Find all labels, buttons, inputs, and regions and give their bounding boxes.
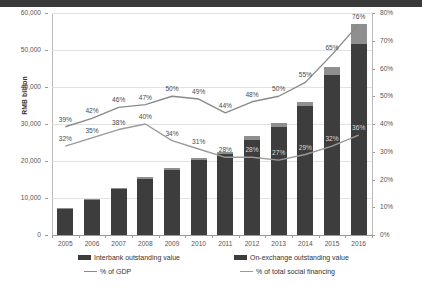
x-tick-mark bbox=[239, 235, 240, 238]
y-tick-label-right: 80% bbox=[380, 9, 393, 16]
label-gdp-2012: 48% bbox=[241, 91, 263, 98]
legend-item-label: On-exchange outstanding value bbox=[250, 254, 349, 261]
label-gdp-2015: 65% bbox=[321, 44, 343, 51]
label-tsf-2005: 32% bbox=[54, 135, 76, 142]
label-gdp-2005: 39% bbox=[54, 116, 76, 123]
y-tick-mark-left bbox=[45, 87, 48, 88]
label-tsf-2011: 28% bbox=[214, 146, 236, 153]
y-tick-label-right: 10% bbox=[380, 203, 393, 210]
x-tick-label-2005: 2005 bbox=[52, 240, 78, 247]
x-tick-label-2016: 2016 bbox=[346, 240, 372, 247]
legend-item-2[interactable]: On-exchange outstanding value bbox=[234, 254, 349, 261]
x-tick-label-2011: 2011 bbox=[212, 240, 238, 247]
chart-screenshot: RMB billion 010,00020,00030,00040,00050,… bbox=[0, 0, 422, 288]
x-tick-mark bbox=[372, 235, 373, 238]
x-tick-label-2014: 2014 bbox=[292, 240, 318, 247]
x-tick-label-2009: 2009 bbox=[159, 240, 185, 247]
x-tick-mark bbox=[319, 235, 320, 238]
legend-item-label: % of total social financing bbox=[256, 268, 335, 275]
chart-legend: Interbank outstanding valueOn-exchange o… bbox=[52, 252, 392, 286]
label-gdp-2006: 42% bbox=[81, 107, 103, 114]
y-tick-mark-left bbox=[45, 50, 48, 51]
x-tick-mark bbox=[212, 235, 213, 238]
x-tick-label-2007: 2007 bbox=[106, 240, 132, 247]
y-tick-label-right: 40% bbox=[380, 120, 393, 127]
y-tick-label-right: 50% bbox=[380, 92, 393, 99]
y-axis-left-labels: 010,00020,00030,00040,00050,00060,000 bbox=[0, 13, 48, 235]
x-tick-mark bbox=[159, 235, 160, 238]
y-axis-right-labels: 0%10%20%30%40%50%60%70%80% bbox=[376, 13, 420, 235]
legend-item-4[interactable]: % of total social financing bbox=[240, 268, 335, 275]
y-tick-mark-left bbox=[45, 13, 48, 14]
label-tsf-2009: 34% bbox=[161, 130, 183, 137]
plot-area: 39%42%46%47%50%49%44%48%50%55%65%76%32%3… bbox=[52, 13, 372, 235]
label-gdp-2016: 76% bbox=[348, 13, 370, 20]
y-tick-label-left: 40,000 bbox=[21, 83, 41, 90]
label-gdp-2010: 49% bbox=[188, 88, 210, 95]
label-tsf-2007: 38% bbox=[108, 119, 130, 126]
legend-bar-swatch-icon bbox=[234, 255, 247, 260]
y-tick-mark-left bbox=[45, 161, 48, 162]
x-tick-mark bbox=[52, 235, 53, 238]
y-tick-label-right: 0% bbox=[380, 231, 390, 238]
x-tick-label-2008: 2008 bbox=[132, 240, 158, 247]
top-border-strip bbox=[0, 0, 422, 7]
label-tsf-2010: 31% bbox=[188, 138, 210, 145]
x-axis-labels: 2005200620072008200920102011201220132014… bbox=[52, 238, 373, 250]
x-tick-mark bbox=[292, 235, 293, 238]
line-total-social-financing bbox=[65, 124, 358, 160]
legend-item-1[interactable]: Interbank outstanding value bbox=[78, 254, 180, 261]
x-tick-mark bbox=[132, 235, 133, 238]
x-tick-label-2012: 2012 bbox=[239, 240, 265, 247]
y-tick-label-right: 20% bbox=[380, 176, 393, 183]
label-gdp-2007: 46% bbox=[108, 96, 130, 103]
y-tick-mark-left bbox=[45, 124, 48, 125]
axis-line-right bbox=[372, 13, 373, 235]
legend-item-label: % of GDP bbox=[100, 268, 131, 275]
label-tsf-2006: 35% bbox=[81, 127, 103, 134]
legend-line-swatch-icon bbox=[240, 271, 253, 272]
y-tick-mark-left bbox=[45, 235, 48, 236]
legend-item-3[interactable]: % of GDP bbox=[84, 268, 131, 275]
x-tick-label-2010: 2010 bbox=[186, 240, 212, 247]
y-tick-label-left: 10,000 bbox=[21, 194, 41, 201]
y-tick-label-left: 50,000 bbox=[21, 46, 41, 53]
x-tick-label-2006: 2006 bbox=[79, 240, 105, 247]
label-tsf-2013: 27% bbox=[268, 149, 290, 156]
label-gdp-2013: 50% bbox=[268, 85, 290, 92]
y-tick-label-left: 0 bbox=[37, 231, 41, 238]
label-gdp-2009: 50% bbox=[161, 85, 183, 92]
legend-item-label: Interbank outstanding value bbox=[94, 254, 180, 261]
label-gdp-2008: 47% bbox=[134, 94, 156, 101]
label-tsf-2015: 32% bbox=[321, 135, 343, 142]
x-tick-mark bbox=[105, 235, 106, 238]
label-tsf-2012: 28% bbox=[241, 146, 263, 153]
y-tick-label-left: 20,000 bbox=[21, 157, 41, 164]
y-tick-label-right: 70% bbox=[380, 37, 393, 44]
x-tick-mark bbox=[345, 235, 346, 238]
label-gdp-2014: 55% bbox=[294, 71, 316, 78]
legend-line-swatch-icon bbox=[84, 271, 97, 272]
x-tick-label-2013: 2013 bbox=[266, 240, 292, 247]
x-tick-mark bbox=[265, 235, 266, 238]
x-tick-label-2015: 2015 bbox=[319, 240, 345, 247]
label-tsf-2016: 36% bbox=[348, 124, 370, 131]
x-tick-mark bbox=[185, 235, 186, 238]
y-tick-label-right: 60% bbox=[380, 65, 393, 72]
y-tick-label-left: 60,000 bbox=[21, 9, 41, 16]
label-tsf-2008: 40% bbox=[134, 113, 156, 120]
y-tick-mark-left bbox=[45, 198, 48, 199]
y-tick-label-left: 30,000 bbox=[21, 120, 41, 127]
x-tick-mark bbox=[79, 235, 80, 238]
label-gdp-2011: 44% bbox=[214, 102, 236, 109]
label-tsf-2014: 29% bbox=[294, 144, 316, 151]
y-tick-label-right: 30% bbox=[380, 148, 393, 155]
legend-bar-swatch-icon bbox=[78, 255, 91, 260]
